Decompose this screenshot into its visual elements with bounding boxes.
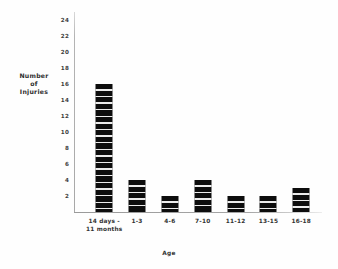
bar-slot bbox=[153, 12, 186, 212]
y-axis-tick-12: 12 bbox=[61, 113, 69, 119]
y-axis-tick-14: 14 bbox=[61, 97, 69, 103]
bar-slot bbox=[285, 12, 318, 212]
x-axis-tick-14-days---11-months: 14 days -11 months bbox=[86, 218, 122, 233]
x-axis-title: Age bbox=[0, 250, 338, 256]
bar-13-15 bbox=[260, 196, 277, 212]
bar-16-18 bbox=[293, 188, 310, 212]
y-axis-tick-16: 16 bbox=[61, 81, 69, 87]
bar-slot bbox=[186, 12, 219, 212]
bar-14-days---11-months bbox=[96, 84, 113, 212]
plot-area: 24681012141618202224 14 days -11 months1… bbox=[74, 12, 322, 212]
y-axis-tick-2: 2 bbox=[65, 193, 69, 199]
y-axis-tick-18: 18 bbox=[61, 65, 69, 71]
x-axis-tick-1-3: 1-3 bbox=[132, 218, 143, 226]
bar-7-10 bbox=[194, 180, 211, 212]
y-axis-title-line-3: Injuries bbox=[6, 88, 62, 96]
y-axis-tick-8: 8 bbox=[65, 145, 69, 151]
bar-4-6 bbox=[161, 196, 178, 212]
x-axis-tick-13-15: 13-15 bbox=[259, 218, 279, 226]
y-axis-title-line-1: Number bbox=[6, 72, 62, 80]
bar-chart-figure: Number of Injuries 24681012141618202224 … bbox=[0, 0, 338, 269]
y-axis-title: Number of Injuries bbox=[6, 72, 62, 97]
y-axis-tick-10: 10 bbox=[61, 129, 69, 135]
y-axis-tick-24: 24 bbox=[61, 17, 69, 23]
bar-1-3 bbox=[129, 180, 146, 212]
y-axis-tick-6: 6 bbox=[65, 161, 69, 167]
x-axis-tick-11-12: 11-12 bbox=[226, 218, 246, 226]
x-axis-line bbox=[74, 212, 322, 213]
x-axis-tick-4-6: 4-6 bbox=[164, 218, 175, 226]
bar-slot bbox=[121, 12, 154, 212]
bar-11-12 bbox=[227, 196, 244, 212]
y-axis-tick-22: 22 bbox=[61, 33, 69, 39]
bar-slot bbox=[252, 12, 285, 212]
x-axis-tick-7-10: 7-10 bbox=[195, 218, 210, 226]
bar-slot bbox=[219, 12, 252, 212]
bar-slot bbox=[88, 12, 121, 212]
x-axis-tick-16-18: 16-18 bbox=[292, 218, 312, 226]
y-axis-tick-20: 20 bbox=[61, 49, 69, 55]
y-axis-title-line-2: of bbox=[6, 80, 62, 88]
bars-layer bbox=[74, 12, 322, 212]
y-axis-tick-4: 4 bbox=[65, 177, 69, 183]
